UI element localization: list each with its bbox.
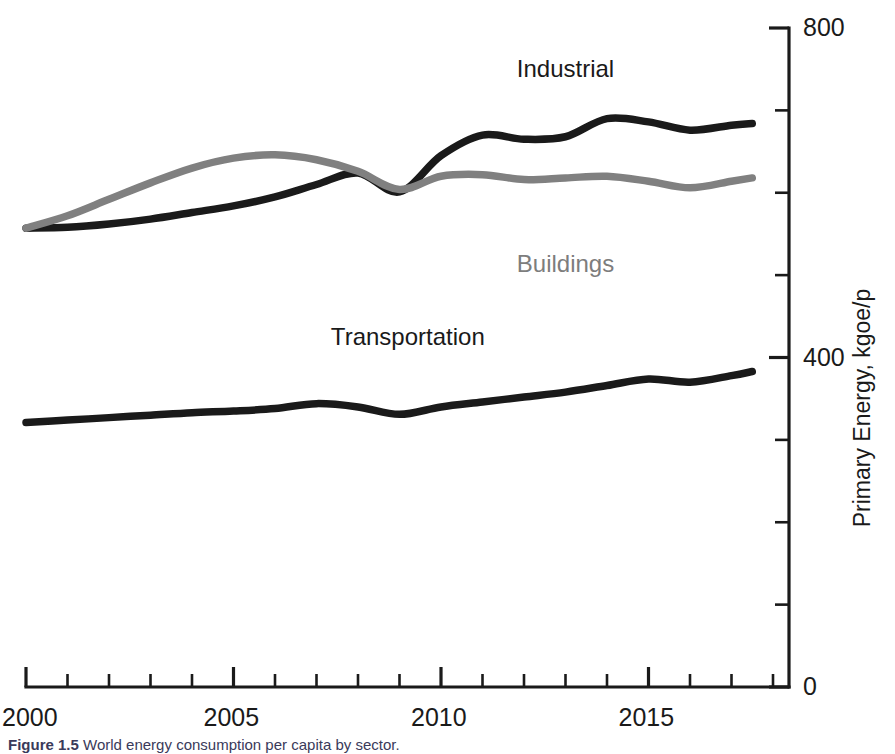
x-axis-ticks	[26, 667, 773, 687]
figure-caption-number: Figure 1.5	[8, 737, 79, 753]
y-tick-label-0: 0	[803, 674, 817, 699]
x-tick-label-2010: 2010	[411, 705, 467, 730]
y-axis-ticks	[769, 28, 789, 687]
y-tick-label-400: 400	[803, 345, 845, 370]
figure-caption-text: World energy consumption per capita by s…	[83, 737, 400, 753]
series-line-industrial	[26, 118, 752, 228]
x-tick-label-2005: 2005	[204, 705, 260, 730]
series-label-transportation: Transportation	[331, 325, 485, 349]
series-group	[26, 118, 752, 423]
y-axis-title: Primary Energy, kgoe/p	[851, 289, 874, 528]
x-tick-label-2000: 2000	[2, 705, 58, 730]
y-tick-label-800: 800	[803, 15, 845, 40]
series-label-industrial: Industrial	[517, 57, 614, 81]
figure-caption: Figure 1.5 World energy consumption per …	[8, 737, 888, 754]
series-line-transportation	[26, 372, 752, 423]
series-label-buildings: Buildings	[517, 252, 614, 276]
x-tick-label-2015: 2015	[619, 705, 675, 730]
